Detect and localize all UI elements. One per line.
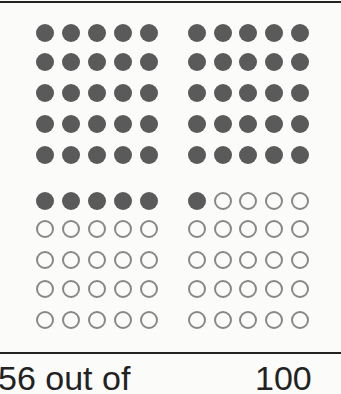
filled-dot [265, 53, 283, 71]
empty-dot [36, 311, 54, 329]
filled-dot [140, 192, 158, 210]
empty-dot [214, 280, 232, 298]
filled-dot [265, 146, 283, 164]
empty-dot [140, 251, 158, 269]
filled-dot [239, 84, 257, 102]
filled-dot [291, 84, 309, 102]
empty-dot [214, 192, 232, 210]
filled-dot [36, 115, 54, 133]
empty-dot [265, 311, 283, 329]
filled-dot [265, 115, 283, 133]
empty-dot [239, 192, 257, 210]
empty-dot [239, 280, 257, 298]
empty-dot [188, 280, 206, 298]
filled-dot [214, 24, 232, 42]
empty-dot [62, 280, 80, 298]
filled-dot [114, 53, 132, 71]
filled-dot [291, 146, 309, 164]
filled-dot [62, 146, 80, 164]
filled-dot [291, 115, 309, 133]
filled-dot [36, 192, 54, 210]
empty-dot [88, 220, 106, 238]
bottom-rule [0, 352, 341, 354]
filled-dot [140, 24, 158, 42]
empty-dot [88, 280, 106, 298]
empty-dot [188, 220, 206, 238]
filled-dot [188, 146, 206, 164]
empty-dot [214, 311, 232, 329]
empty-dot [62, 220, 80, 238]
filled-dot [88, 24, 106, 42]
empty-dot [214, 220, 232, 238]
filled-dot [140, 146, 158, 164]
empty-dot [36, 280, 54, 298]
empty-dot [214, 251, 232, 269]
empty-dot [239, 220, 257, 238]
top-rule [0, 1, 341, 3]
filled-dot [114, 146, 132, 164]
filled-dot [188, 84, 206, 102]
empty-dot [88, 251, 106, 269]
caption-left: 56 out of [0, 358, 130, 394]
empty-dot [188, 251, 206, 269]
empty-dot [88, 311, 106, 329]
filled-dot [265, 24, 283, 42]
filled-dot [62, 115, 80, 133]
filled-dot [114, 24, 132, 42]
filled-dot [88, 53, 106, 71]
empty-dot [265, 192, 283, 210]
filled-dot [88, 115, 106, 133]
filled-dot [214, 115, 232, 133]
filled-dot [88, 192, 106, 210]
filled-dot [239, 24, 257, 42]
filled-dot [36, 53, 54, 71]
caption-right: 100 [255, 358, 312, 394]
filled-dot [62, 84, 80, 102]
empty-dot [114, 311, 132, 329]
empty-dot [265, 251, 283, 269]
filled-dot [114, 192, 132, 210]
empty-dot [291, 251, 309, 269]
filled-dot [239, 115, 257, 133]
empty-dot [36, 251, 54, 269]
empty-dot [265, 220, 283, 238]
filled-dot [62, 192, 80, 210]
empty-dot [291, 311, 309, 329]
filled-dot [36, 84, 54, 102]
empty-dot [239, 311, 257, 329]
filled-dot [140, 84, 158, 102]
filled-dot [140, 115, 158, 133]
filled-dot [214, 146, 232, 164]
filled-dot [88, 146, 106, 164]
empty-dot [140, 280, 158, 298]
caption: 56 out of 100 [0, 358, 341, 394]
empty-dot [62, 251, 80, 269]
empty-dot [62, 311, 80, 329]
empty-dot [114, 251, 132, 269]
empty-dot [291, 280, 309, 298]
filled-dot [36, 146, 54, 164]
empty-dot [114, 280, 132, 298]
filled-dot [214, 84, 232, 102]
empty-dot [239, 251, 257, 269]
empty-dot [114, 220, 132, 238]
filled-dot [188, 53, 206, 71]
empty-dot [265, 280, 283, 298]
filled-dot [239, 53, 257, 71]
empty-dot [291, 192, 309, 210]
empty-dot [188, 311, 206, 329]
filled-dot [188, 192, 206, 210]
filled-dot [140, 53, 158, 71]
filled-dot [62, 24, 80, 42]
empty-dot [36, 220, 54, 238]
empty-dot [140, 220, 158, 238]
filled-dot [36, 24, 54, 42]
filled-dot [62, 53, 80, 71]
empty-dot [140, 311, 158, 329]
filled-dot [188, 24, 206, 42]
filled-dot [291, 24, 309, 42]
filled-dot [265, 84, 283, 102]
filled-dot [239, 146, 257, 164]
filled-dot [291, 53, 309, 71]
filled-dot [88, 84, 106, 102]
